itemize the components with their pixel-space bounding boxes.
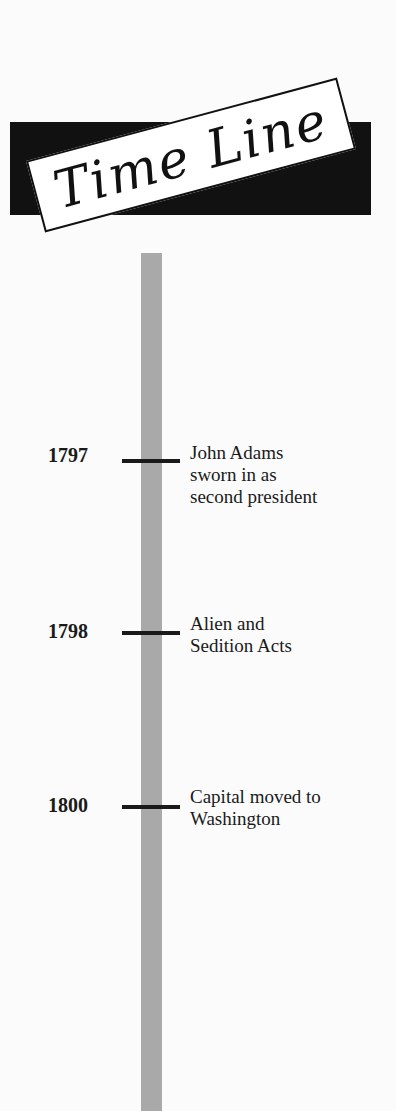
- entry-event: Alien and Sedition Acts: [190, 613, 330, 657]
- entry-event: John Adams sworn in as second president: [190, 442, 325, 508]
- entry-event: Capital moved to Washington: [190, 786, 340, 830]
- entry-year: 1798: [48, 621, 88, 641]
- timeline-bar: [141, 253, 162, 1111]
- timeline-tick: [122, 805, 180, 809]
- entry-year: 1797: [48, 445, 88, 465]
- timeline-tick: [122, 631, 180, 635]
- entry-year: 1800: [48, 795, 88, 815]
- timeline-tick: [122, 459, 180, 463]
